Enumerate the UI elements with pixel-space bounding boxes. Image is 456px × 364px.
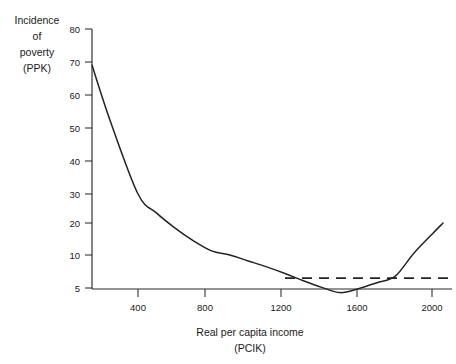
y-tick-marks bbox=[85, 29, 92, 288]
y-axis-title-line-4: (PPK) bbox=[23, 62, 51, 74]
y-tick-label-10: 10 bbox=[69, 250, 80, 261]
chart-canvas: 80 70 60 50 40 30 20 10 5 400 800 1200 1… bbox=[0, 0, 456, 364]
x-tick-marks bbox=[138, 289, 432, 297]
y-tick-label-70: 70 bbox=[69, 57, 80, 68]
y-tick-label-50: 50 bbox=[69, 123, 80, 134]
y-tick-label-60: 60 bbox=[69, 90, 80, 101]
y-axis-title-line-2: of bbox=[33, 30, 42, 42]
y-tick-label-80: 80 bbox=[69, 24, 80, 35]
y-tick-label-40: 40 bbox=[69, 156, 80, 167]
poverty-incidence-curve bbox=[92, 65, 443, 292]
y-tick-label-30: 30 bbox=[69, 189, 80, 200]
x-axis-title-line-2: (PCIK) bbox=[234, 342, 266, 354]
x-tick-label-400: 400 bbox=[130, 302, 146, 313]
x-tick-label-2000: 2000 bbox=[421, 302, 442, 313]
y-axis-title-line-3: poverty bbox=[20, 46, 55, 58]
poverty-income-chart: 80 70 60 50 40 30 20 10 5 400 800 1200 1… bbox=[0, 0, 456, 364]
x-axis-title: Real per capita income (PCIK) bbox=[196, 326, 304, 354]
x-tick-label-1200: 1200 bbox=[270, 302, 291, 313]
y-axis-title-line-1: Incidence bbox=[15, 14, 60, 26]
y-tick-label-5: 5 bbox=[75, 283, 80, 294]
x-axis-title-line-1: Real per capita income bbox=[196, 326, 304, 338]
y-axis-title: Incidence of poverty (PPK) bbox=[15, 14, 60, 74]
y-tick-labels: 80 70 60 50 40 30 20 10 5 bbox=[69, 24, 80, 294]
x-tick-labels: 400 800 1200 1600 2000 bbox=[130, 302, 443, 313]
y-tick-label-20: 20 bbox=[69, 218, 80, 229]
x-tick-label-800: 800 bbox=[197, 302, 213, 313]
x-tick-label-1600: 1600 bbox=[346, 302, 367, 313]
